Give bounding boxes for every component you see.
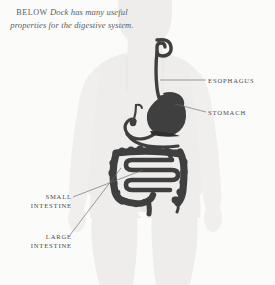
label-esophagus: ESOPHAGUS: [208, 77, 255, 86]
right-leg-shape: [152, 212, 198, 285]
figure-caption: BELOW Dock has many useful properties fo…: [6, 6, 138, 31]
caption-lead-in: BELOW: [16, 8, 47, 17]
rectum-shape: [148, 200, 149, 214]
right-hand-shape: [204, 204, 222, 232]
left-leg-shape: [91, 212, 137, 285]
label-large-intestine: LARGE INTESTINE: [6, 233, 72, 250]
digestive-system-figure: BELOW Dock has many useful properties fo…: [0, 0, 275, 285]
label-stomach: STOMACH: [208, 109, 246, 118]
label-small-intestine: SMALL INTESTINE: [16, 193, 72, 210]
gallbladder-shape: [130, 118, 137, 126]
